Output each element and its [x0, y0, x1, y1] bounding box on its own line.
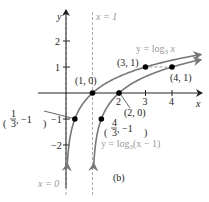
data-point	[72, 116, 78, 122]
y-axis-label: y	[56, 11, 62, 22]
curve-label-log3x: y = log3 x	[136, 43, 175, 56]
point-label-third-neg1: ( 1 3 , −1 )	[3, 108, 46, 130]
y-tick-label: −1	[51, 114, 62, 125]
x-axis-label: x	[195, 98, 201, 109]
data-point	[116, 90, 122, 96]
point-label-1-0: (1, 0)	[75, 75, 97, 87]
point-label-2-0: (2, 0)	[124, 107, 146, 119]
chart: 23421−1−2 x y x = 0 x = 1 y = log3 x y =…	[0, 0, 209, 202]
curve-label-tail: (x − 1)	[133, 138, 160, 150]
data-point	[169, 64, 175, 70]
x-tick-label: 3	[143, 96, 148, 107]
curve-label-tail: x	[168, 43, 176, 54]
y-tick-label: 2	[55, 36, 60, 47]
point-label-four-thirds-neg1: ( 4 3 , −1 )	[104, 117, 147, 139]
x-tick-label: 4	[169, 96, 174, 107]
y-tick-label: −2	[51, 140, 62, 151]
data-point	[143, 64, 149, 70]
asymptote-label-x1: x = 1	[95, 11, 117, 22]
frac-y: , −1	[16, 114, 32, 125]
point-label-3-1: (3, 1)	[117, 57, 139, 69]
paren-close: )	[43, 118, 46, 130]
data-point	[90, 90, 96, 96]
x-tick-label: 2	[116, 96, 121, 107]
curve-label-main: y = log	[136, 43, 164, 54]
panel-label: (b)	[113, 172, 125, 184]
curve-label-log3x-minus-1: y = log3(x − 1)	[101, 138, 160, 151]
asymptote-label-x0: x = 0	[37, 178, 59, 189]
paren-close: )	[144, 127, 147, 139]
point-label-4-1: (4, 1)	[170, 72, 192, 84]
data-point	[99, 116, 105, 122]
paren-open: (	[3, 118, 7, 130]
curve-label-main: y = log	[101, 138, 129, 149]
frac-y: , −1	[117, 123, 133, 134]
y-tick-label: 1	[55, 62, 60, 73]
